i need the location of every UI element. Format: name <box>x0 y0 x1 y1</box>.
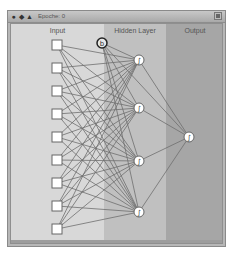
connection-edge <box>57 160 139 161</box>
hidden-node-label: ∫ <box>137 158 141 166</box>
input-node[interactable] <box>52 40 62 50</box>
connection-edge <box>139 60 189 137</box>
hidden-node[interactable]: ∫ <box>134 103 144 113</box>
network-window: ● ◆ ▲ Epoche: 0 Input Hidden Layer Outpu… <box>7 10 226 247</box>
window-title: Epoche: 0 <box>38 12 65 21</box>
hidden-node[interactable]: ∫ <box>134 156 144 166</box>
connection-edge <box>57 68 139 212</box>
connection-edge <box>57 161 139 229</box>
bottom-border <box>11 240 222 243</box>
collapse-icon[interactable]: ▲ <box>26 13 33 20</box>
bias-node-label: b <box>100 40 105 48</box>
connection-edge <box>57 137 139 212</box>
output-node-label: ∫ <box>187 134 191 142</box>
titlebar[interactable]: ● ◆ ▲ Epoche: 0 <box>8 11 225 23</box>
bias-node[interactable]: b <box>97 38 107 48</box>
hidden-node-label: ∫ <box>137 57 141 65</box>
hidden-node[interactable]: ∫ <box>134 55 144 65</box>
input-node[interactable] <box>52 224 62 234</box>
resize-icon[interactable]: ◆ <box>18 13 25 20</box>
input-node[interactable] <box>52 155 62 165</box>
connection-edge <box>139 108 189 137</box>
hidden-node[interactable]: ∫ <box>134 207 144 217</box>
hidden-node-label: ∫ <box>137 105 141 113</box>
connection-edge <box>57 212 139 229</box>
connection-edge <box>139 137 189 161</box>
hidden-node-label: ∫ <box>137 209 141 217</box>
input-node[interactable] <box>52 109 62 119</box>
network-graph: b∫∫∫∫∫ <box>11 24 223 244</box>
close-icon[interactable]: ● <box>10 13 17 20</box>
input-node[interactable] <box>52 63 62 73</box>
network-canvas: Input Hidden Layer Output b∫∫∫∫∫ <box>10 23 223 244</box>
input-node[interactable] <box>52 201 62 211</box>
connection-edge <box>102 43 139 60</box>
input-node[interactable] <box>52 86 62 96</box>
input-node[interactable] <box>52 132 62 142</box>
input-node[interactable] <box>52 178 62 188</box>
connection-edge <box>57 60 139 68</box>
zoom-box-icon[interactable] <box>214 12 222 20</box>
connection-edge <box>139 137 189 212</box>
output-node[interactable]: ∫ <box>184 132 194 142</box>
connection-edge <box>57 45 139 60</box>
